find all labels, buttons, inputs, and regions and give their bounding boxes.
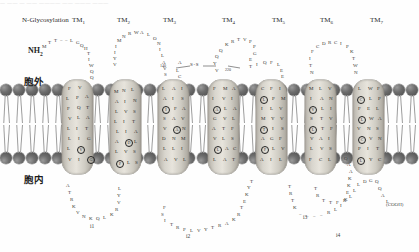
residue: A — [86, 115, 90, 120]
residue: T — [232, 157, 235, 162]
residue: N — [329, 96, 333, 101]
residue: L — [270, 106, 273, 111]
residue: S — [376, 126, 379, 131]
residue: V — [279, 106, 283, 111]
disulfide-residue-left: 140 — [160, 63, 166, 68]
gpcr-snake-plot-figure: — —— — —— ———— —— ——— ——— N-Glycosylatio… — [0, 0, 419, 252]
residue-highlighted: T — [260, 126, 268, 134]
residue: I — [125, 129, 127, 134]
residue: I — [124, 99, 126, 104]
disulfide-label: S-S — [190, 62, 199, 67]
residue: F — [358, 106, 361, 111]
residue: L — [67, 126, 70, 131]
residue: A — [320, 96, 324, 101]
residue: N — [182, 126, 186, 131]
residue: A — [182, 106, 186, 111]
residue: L — [321, 106, 324, 111]
residue-highlighted: L — [358, 116, 366, 124]
residue: I — [310, 96, 312, 101]
residue: A — [163, 96, 167, 101]
residue: F — [68, 86, 71, 91]
residue: Y — [271, 116, 275, 121]
residue: I — [272, 126, 274, 131]
residue: A — [172, 86, 176, 91]
residue: Y — [369, 157, 373, 162]
residue: S — [135, 160, 138, 165]
residue: V — [320, 146, 324, 151]
residue: A — [85, 94, 89, 99]
residue: L — [66, 96, 69, 101]
residue: I — [123, 119, 125, 124]
loop-label-i4: i4 — [336, 232, 340, 238]
helix-tm7: LWFCLPFELLWAVNSCVNPITLYC — [353, 80, 384, 174]
residue: A — [223, 157, 227, 162]
residue-highlighted: L — [357, 157, 365, 165]
residue: I — [78, 136, 80, 141]
residue: D — [162, 136, 166, 141]
residue: V — [357, 126, 361, 131]
residue: L — [77, 115, 80, 120]
residue: A — [260, 157, 264, 162]
residue: S — [281, 126, 284, 131]
residue: F — [67, 106, 70, 111]
residue: A — [233, 106, 237, 111]
residue-highlighted: L — [309, 126, 317, 134]
residue: T — [86, 105, 89, 110]
residue: T — [132, 119, 135, 124]
residue: V — [223, 116, 227, 121]
residue: T — [222, 126, 225, 131]
residue: V — [68, 157, 72, 162]
residue: I — [78, 157, 80, 162]
residue: A — [319, 136, 323, 141]
residue: L — [67, 146, 70, 151]
residue: P — [358, 146, 361, 151]
residue: L — [224, 106, 227, 111]
residue: C — [378, 157, 381, 162]
residue: L — [232, 116, 235, 121]
residue-highlighted: P — [116, 160, 124, 168]
residue: F — [330, 126, 333, 131]
helix-tm5: CFILPMILVMYVTISAGFFLVAIL — [256, 80, 287, 174]
helix-tm3: LAIAISIFASAVVANDNMLLIAVL — [158, 80, 189, 174]
residue: S — [329, 146, 332, 151]
residue: S — [163, 116, 166, 121]
loop-label-i2: i2 — [186, 233, 190, 239]
residue: L — [183, 157, 186, 162]
loop-label-i3: i3 — [303, 214, 307, 220]
residue: N — [367, 126, 371, 131]
residue: L — [222, 136, 225, 141]
residue: T — [85, 126, 88, 131]
residue: F — [174, 106, 177, 111]
residue: L — [319, 86, 322, 91]
residue: I — [279, 86, 281, 91]
residue: A — [115, 139, 119, 144]
residue: I — [76, 126, 78, 131]
residue: L — [162, 86, 165, 91]
residue-highlighted: G — [87, 156, 95, 164]
residue: T — [320, 116, 323, 121]
residue: A — [261, 136, 265, 141]
residue: L — [272, 146, 275, 151]
residue: L — [116, 129, 119, 134]
residue: I — [261, 106, 263, 111]
residue: V — [281, 146, 285, 151]
residue: G — [87, 136, 91, 141]
residue: V — [163, 126, 167, 131]
residue-highlighted: A — [213, 106, 221, 114]
residue: I — [231, 96, 233, 101]
residue: L — [369, 96, 372, 101]
residue: L — [310, 146, 313, 151]
residue: N — [133, 98, 137, 103]
residue: V — [68, 116, 72, 121]
residue: L — [328, 157, 331, 162]
residue: C — [233, 146, 236, 151]
residue: F — [377, 86, 380, 91]
residue: M — [261, 116, 265, 121]
residue: M — [309, 86, 313, 91]
residue: M — [114, 89, 118, 94]
residue: S — [181, 96, 184, 101]
residue: M — [281, 96, 285, 101]
residue: G — [270, 136, 274, 141]
residue: I — [270, 157, 272, 162]
helix-tm4: FMAIVIALAGVLATFVLSLACLAT — [208, 80, 239, 174]
